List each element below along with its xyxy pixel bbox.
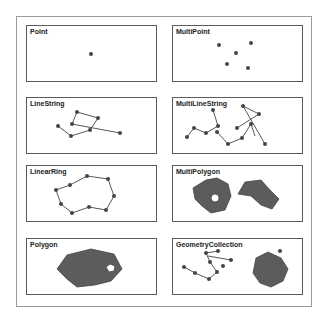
polygon-geometry-icon [27,239,158,296]
multipoint-geometry-icon [173,26,304,83]
panel-multipoint: MultiPoint [172,25,303,82]
multipolygon-geometry-icon [173,166,304,223]
linearring-geometry-icon [27,166,158,223]
panel-multipolygon: MultiPolygon [172,165,303,222]
geometrycollection-geometry-icon [173,239,304,296]
panel-multilinestring: MultiLineString [172,97,303,154]
multilinestring-geometry-icon [173,98,304,155]
linestring-geometry-icon [27,98,158,155]
panel-polygon: Polygon [26,238,157,295]
panel-geometrycollection: GeometryCollection [172,238,303,295]
panel-linestring: LineString [26,97,157,154]
panel-linearring: LinearRing [26,165,157,222]
panel-point: Point [26,25,157,82]
point-geometry-icon [27,26,158,83]
